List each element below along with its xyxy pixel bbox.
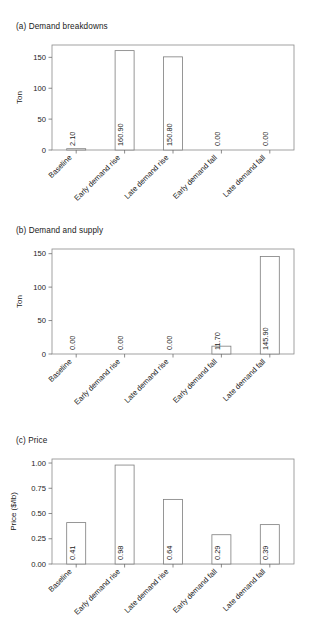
panel-a-plot: 050100150Ton2.10Baseline160.90Early dema… <box>0 18 310 218</box>
y-axis-tick-label: 0 <box>42 350 46 359</box>
y-axis-tick-label: 150 <box>33 249 46 258</box>
bar <box>67 149 86 150</box>
bar-value-label: 0.00 <box>68 336 77 350</box>
y-axis-title: Price ($/lb) <box>9 492 18 531</box>
bar-value-label: 2.10 <box>68 132 77 146</box>
chart-panel-b: (b) Demand and supply 050100150Ton0.00Ba… <box>0 222 310 422</box>
x-axis-category-label: Early demand fall <box>171 153 219 201</box>
bar-value-label: 160.90 <box>116 123 125 146</box>
bar-value-label: 0.41 <box>68 546 77 560</box>
panel-c-plot: 0.000.250.500.751.00Price ($/lb)0.41Base… <box>0 432 310 632</box>
chart-panel-c: (c) Price 0.000.250.500.751.00Price ($/l… <box>0 432 310 632</box>
x-axis-category-label: Baseline <box>47 357 74 384</box>
bar-value-label: 0.64 <box>165 546 174 560</box>
bar-value-label: 0.98 <box>116 546 125 560</box>
panel-b-plot: 050100150Ton0.00Baseline0.00Early demand… <box>0 222 310 422</box>
bar-value-label: 150.80 <box>165 123 174 146</box>
y-axis-tick-label: 100 <box>33 84 46 93</box>
x-axis-category-label: Early demand rise <box>72 567 122 617</box>
bar-value-label: 0.00 <box>213 132 222 146</box>
y-axis-tick-label: 150 <box>33 53 46 62</box>
bar-value-label: 0.00 <box>116 336 125 350</box>
figure-bar-chart-panels: (a) Demand breakdowns 050100150Ton2.10Ba… <box>0 0 310 640</box>
x-axis-category-label: Early demand fall <box>171 567 219 615</box>
bar-value-label: 11.70 <box>213 332 222 350</box>
y-axis-tick-label: 100 <box>33 283 46 292</box>
x-axis-category-label: Early demand fall <box>171 357 219 405</box>
x-axis-category-label: Baseline <box>47 153 74 180</box>
y-axis-tick-label: 0.75 <box>31 484 46 493</box>
y-axis-tick-label: 0.00 <box>31 560 46 569</box>
y-axis-title: Ton <box>15 91 24 104</box>
x-axis-category-label: Late demand fall <box>221 567 267 613</box>
x-axis-category-label: Late demand rise <box>123 357 171 405</box>
x-axis-category-label: Baseline <box>47 567 74 594</box>
chart-panel-a: (a) Demand breakdowns 050100150Ton2.10Ba… <box>0 18 310 218</box>
y-axis-tick-label: 0 <box>42 146 46 155</box>
y-axis-tick-label: 1.00 <box>31 459 46 468</box>
x-axis-category-label: Late demand rise <box>123 153 171 201</box>
x-axis-category-label: Early demand rise <box>72 153 122 203</box>
y-axis-tick-label: 0.25 <box>31 534 46 543</box>
x-axis-category-label: Early demand rise <box>72 357 122 407</box>
y-axis-tick-label: 0.50 <box>31 509 46 518</box>
y-axis-tick-label: 50 <box>38 316 46 325</box>
bar-value-label: 145.90 <box>261 327 270 350</box>
x-axis-category-label: Late demand rise <box>123 567 171 615</box>
bar-value-label: 0.00 <box>165 336 174 350</box>
x-axis-category-label: Late demand fall <box>221 357 267 403</box>
bar-value-label: 0.29 <box>213 546 222 560</box>
y-axis-tick-label: 50 <box>38 115 46 124</box>
bar-value-label: 0.00 <box>261 132 270 146</box>
bar-value-label: 0.39 <box>261 546 270 560</box>
y-axis-title: Ton <box>15 295 24 308</box>
x-axis-category-label: Late demand fall <box>221 153 267 199</box>
